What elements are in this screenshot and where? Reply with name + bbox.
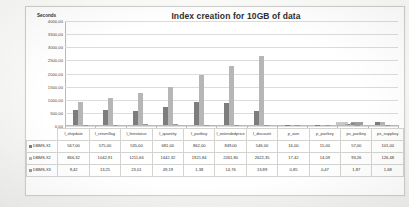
table-column-header: p_partkey [309,129,340,141]
table-cell: 9,42 [58,165,89,177]
bar-dbms-x3 [143,124,148,125]
table-cell: 1442,32 [152,153,183,165]
bar-group [368,21,398,125]
y-tick-label: 2500,00 [48,58,63,63]
bar-group [95,21,125,125]
table-cell: 1,68 [372,165,404,177]
bar-group [337,21,367,125]
table-row-label: DBMS-X3 [27,165,58,177]
table-cell: 1921,84 [184,153,215,165]
table-corner-cell [27,129,58,141]
table-column-header: l_extendedprice [215,129,246,141]
data-table: l_shipdatel_returnflagl_linestatusl_quan… [26,128,404,194]
table-column-header: ps_partkey [341,129,372,141]
table-cell: 57,00 [341,141,372,153]
table-row: DBMS-X2866,321042,911211,661442,321921,8… [27,153,404,165]
table-cell: 862,00 [184,141,215,153]
table-cell: 866,32 [58,153,89,165]
table-column-header: l_shipdate [58,129,89,141]
table-cell: 0,47 [309,165,340,177]
y-axis-title: Seconds [37,13,56,18]
table-cell: 101,00 [372,141,404,153]
table-column-header: p_size [278,129,309,141]
table-column-header: l_discount [246,129,277,141]
table-row: DBMS-X39,4213,2523,0149,191,3814,7613,89… [27,165,404,177]
bar-group [156,21,186,125]
table-cell: 1,38 [184,165,215,177]
series-color-swatch [29,169,32,172]
bar-dbms-x2 [168,87,173,125]
screenshot-page: Seconds Index creation for 10GB of data … [0,0,409,207]
table-cell: 535,00 [121,141,152,153]
chart-data-table: l_shipdatel_returnflagl_linestatusl_quan… [26,128,404,177]
bar-dbms-x2 [229,66,234,125]
legend-chip-dbms-x1 [351,122,363,125]
table-cell: 1211,66 [121,153,152,165]
chart-plot-area: 4000,003500,003000,002500,002000,001500,… [65,21,398,126]
table-row: DBMS-X1567,00575,00535,00681,00862,00849… [27,141,404,153]
table-cell: 2622,35 [246,153,277,165]
bar-group [277,21,307,125]
bar-dbms-x2 [259,56,264,125]
table-cell: 16,00 [278,141,309,153]
table-cell: 13,25 [89,165,120,177]
y-tick-label: 1500,00 [48,84,63,89]
bar-dbms-x2 [138,93,143,125]
bar-group [307,21,337,125]
y-tick-label: 2000,00 [48,71,63,76]
table-cell: 575,00 [89,141,120,153]
table-column-header: l_quantity [152,129,183,141]
table-cell: 546,00 [246,141,277,153]
bar-group [247,21,277,125]
y-tick-label: 1000,00 [48,97,63,102]
table-header-row: l_shipdatel_returnflagl_linestatusl_quan… [27,129,404,141]
bar-group [126,21,156,125]
table-cell: 0,85 [278,165,309,177]
bar-dbms-x2 [199,75,204,125]
series-color-swatch [29,157,32,160]
table-cell: 17,42 [278,153,309,165]
legend-strip [336,119,398,127]
y-tick-label: 3500,00 [48,32,63,37]
table-cell: 23,01 [121,165,152,177]
legend-chip-dbms-x2 [336,122,348,125]
bar-dbms-x2 [108,98,113,125]
table-cell: 15,00 [309,141,340,153]
y-tick-label: 4000,00 [48,19,63,24]
bar-dbms-x2 [78,102,83,125]
table-column-header: l_linestatus [121,129,152,141]
table-cell: 849,00 [215,141,246,153]
table-cell: 681,00 [152,141,183,153]
bar-dbms-x3 [173,124,178,125]
chart-title: Index creation for 10GB of data [121,11,351,21]
table-row-label: DBMS-X2 [27,153,58,165]
table-column-header: l_returnflag [89,129,120,141]
series-color-swatch [29,145,32,148]
table-row-label: DBMS-X1 [27,141,58,153]
y-tick-label: 3000,00 [48,45,63,50]
table-cell: 14,76 [215,165,246,177]
table-cell: 1,87 [341,165,372,177]
table-cell: 2261,80 [215,153,246,165]
table-body: DBMS-X1567,00575,00535,00681,00862,00849… [27,141,404,177]
bar-group [65,21,95,125]
table-cell: 126,48 [372,153,404,165]
table-cell: 13,89 [246,165,277,177]
table-column-header: l_partkey [184,129,215,141]
table-column-header: ps_suppkey [372,129,404,141]
y-tick-label: 500,00 [50,110,63,115]
table-cell: 49,19 [152,165,183,177]
table-cell: 567,00 [58,141,89,153]
table-cell: 14,09 [309,153,340,165]
spreadsheet-chart-sheet: Seconds Index creation for 10GB of data … [25,6,405,196]
table-cell: 1042,91 [89,153,120,165]
table-cell: 93,26 [341,153,372,165]
bar-group [216,21,246,125]
bar-group [186,21,216,125]
